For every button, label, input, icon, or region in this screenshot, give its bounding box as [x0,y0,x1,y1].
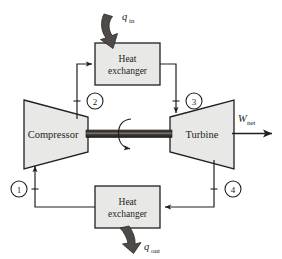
heat-exchanger-bottom: Heat exchanger [95,186,160,228]
flow-turbine-to-bottom-hx [165,160,218,207]
heat-in-symbol: q [122,11,127,22]
state-4-label: 4 [231,185,236,195]
state-point-2: 2 [87,93,103,109]
heat-exchanger-bottom-body [95,186,160,228]
state-point-1: 1 [11,181,27,197]
turbine: Turbine [170,100,234,169]
compressor-label: Compressor [28,129,79,140]
heat-exchanger-bottom-label-line1: Heat [119,197,137,207]
heat-exchanger-top: Heat exchanger [95,43,160,85]
heat-out-arrow [120,226,141,254]
heat-in-label: q in [122,11,135,25]
heat-out-label: q out [144,241,160,255]
heat-in-subscript: in [129,17,135,25]
compressor: Compressor [24,100,88,169]
brayton-cycle-diagram: Heat exchanger Heat exchanger Compressor… [0,0,282,259]
state-1-label: 1 [17,185,22,195]
state-point-4: 4 [225,181,241,197]
flow-top-hx-to-turbine [160,64,180,113]
heat-out-arrow-glyph [120,226,141,254]
flow-line-4 [165,160,214,207]
heat-exchanger-top-label-line2: exchanger [108,66,148,76]
heat-exchanger-top-label-line1: Heat [119,54,137,64]
heat-exchanger-bottom-label-line2: exchanger [108,209,148,219]
turbine-label: Turbine [186,129,219,140]
flow-compressor-to-top-hx [74,64,93,119]
heat-exchanger-top-body [95,43,160,85]
work-net-subscript: net [247,119,256,127]
work-net-label: W net [238,113,256,127]
flow-bottom-hx-to-compressor [32,166,96,207]
shaft-bar [86,130,172,138]
heat-out-symbol: q [144,241,149,252]
state-3-label: 3 [192,97,197,107]
flow-line-2 [77,64,92,119]
flow-line-1 [35,166,95,207]
diagram-canvas: Heat exchanger Heat exchanger Compressor… [0,0,282,259]
heat-out-subscript: out [151,247,160,255]
state-point-3: 3 [186,93,202,109]
flow-line-3 [160,64,176,113]
shaft [86,130,172,138]
state-2-label: 2 [93,97,98,107]
